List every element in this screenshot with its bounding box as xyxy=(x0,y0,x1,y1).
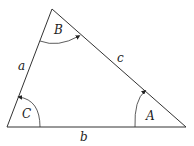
triangle-diagram: B C A a b c xyxy=(0,0,194,146)
angle-label-c: C xyxy=(22,107,31,121)
angle-arc-a xyxy=(135,91,145,127)
angle-label-b: B xyxy=(53,23,63,37)
side-label-c: c xyxy=(117,51,124,65)
angle-label-a: A xyxy=(145,109,155,123)
triangle xyxy=(7,9,186,127)
angle-arc-b xyxy=(40,36,79,44)
side-label-b: b xyxy=(80,130,88,144)
side-label-a: a xyxy=(18,59,25,73)
